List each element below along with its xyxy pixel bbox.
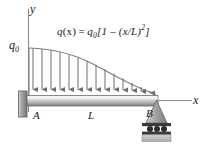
load-intensity-label: q0 xyxy=(9,39,19,54)
diagram-canvas xyxy=(0,0,208,144)
load-equation: q(x) = q0[1 – (x/L)2] xyxy=(57,24,150,39)
equation-rhs-close: ] xyxy=(145,25,149,37)
ground-hatch xyxy=(142,135,171,142)
beam xyxy=(26,96,158,107)
span-label-l: L xyxy=(88,110,94,121)
beam-load-diagram: y x A L B q0 q(x) = q0[1 – (x/L)2] xyxy=(0,0,208,144)
equation-rhs-body: [1 – (x/L) xyxy=(97,25,141,37)
support-label-a: A xyxy=(33,110,40,121)
y-axis-label: y xyxy=(30,3,35,15)
support-label-b: B xyxy=(146,108,153,119)
load-intensity-subscript: 0 xyxy=(15,45,19,54)
x-axis-label: x xyxy=(193,94,198,106)
equation-lhs-arg: (x) xyxy=(63,25,76,37)
load-curve xyxy=(29,48,156,95)
roller-circle xyxy=(154,126,160,132)
roller-circle xyxy=(147,126,153,132)
roller-circle xyxy=(161,126,167,132)
wall-support-left xyxy=(19,91,28,117)
load-arrows xyxy=(33,48,150,93)
